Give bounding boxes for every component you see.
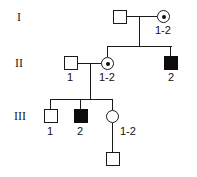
individual-ii-2-circle	[101, 57, 114, 70]
individual-iii-1-label: 1	[47, 126, 53, 137]
generation-label-iii: III	[14, 110, 26, 122]
descent-line-gen3	[112, 123, 113, 152]
sibship-line-gen2	[107, 46, 172, 47]
mating-line-gen1	[127, 16, 157, 17]
individual-i-1-square	[113, 10, 127, 24]
carrier-dot-icon	[106, 62, 110, 66]
individual-iii-1-square	[44, 109, 58, 123]
pedigree-chart: I II III 1-2 1 1-2 2 1 2 1-2	[0, 0, 197, 177]
individual-iii-3-label: 1-2	[120, 126, 136, 137]
individual-iii-3-circle	[106, 110, 119, 123]
individual-iv-1-square	[106, 152, 120, 166]
generation-label-ii: II	[15, 57, 23, 69]
individual-i-2-label: 1-2	[155, 25, 171, 36]
individual-ii-1-square	[64, 56, 78, 70]
individual-i-2-circle	[157, 10, 170, 23]
individual-iii-2-square	[74, 109, 88, 123]
generation-label-i: I	[17, 11, 21, 23]
descent-line-gen2	[90, 63, 91, 100]
individual-ii-1-label: 1	[67, 72, 73, 83]
sibling-drop-iii-3	[112, 99, 113, 110]
descent-line-gen1	[139, 16, 140, 47]
sibship-line-gen3	[50, 99, 113, 100]
sibling-drop-ii-2	[107, 46, 108, 57]
individual-iii-2-label: 2	[77, 126, 83, 137]
individual-ii-3-label: 2	[168, 72, 174, 83]
carrier-dot-icon	[162, 15, 166, 19]
individual-ii-3-square	[164, 56, 178, 70]
individual-ii-2-label: 1-2	[99, 72, 115, 83]
